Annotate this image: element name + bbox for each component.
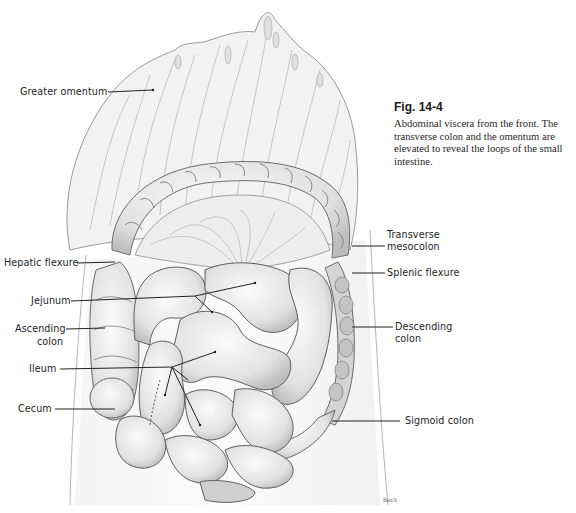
label-descending-colon-line1: Descending — [395, 321, 452, 333]
label-ascending-colon-line1: Ascending — [15, 323, 66, 335]
label-cecum: Cecum — [18, 403, 52, 415]
cecum-shape — [90, 378, 134, 418]
artist-signature: Beck — [383, 496, 398, 503]
figure-number: Fig. 14-4 — [394, 100, 443, 114]
label-ascending-colon-line2: colon — [37, 336, 63, 348]
label-sigmoid-colon: Sigmoid colon — [405, 415, 474, 427]
label-hepatic-flexure: Hepatic flexure — [4, 257, 79, 269]
label-greater-omentum: Greater omentum — [20, 86, 108, 98]
label-ileum: Ileum — [29, 363, 56, 375]
label-splenic-flexure: Splenic flexure — [387, 267, 460, 279]
label-descending-colon-line2: colon — [395, 333, 421, 345]
ascending-colon-shape — [90, 262, 139, 420]
figure-caption: Abdominal viscera from the front. The tr… — [394, 118, 576, 168]
anatomy-figure: Greater omentum Hepatic flexure Jejunum … — [0, 0, 576, 513]
label-transverse-mesocolon-line1: Transverse — [387, 229, 440, 241]
label-jejunum: Jejunum — [31, 295, 71, 307]
abdominal-viscera-illustration — [0, 0, 576, 513]
label-transverse-mesocolon-line2: mesocolon — [387, 241, 440, 253]
